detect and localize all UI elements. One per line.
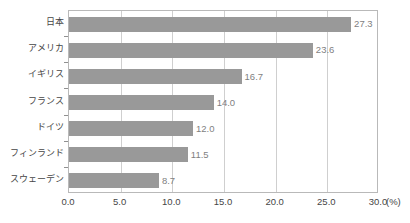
bar-value-label: 8.7 [162,176,175,186]
x-axis-labels: 0.05.010.015.020.025.030.0(%) [0,197,410,211]
x-axis-tick-label: 5.0 [113,197,126,207]
bar [69,17,351,32]
y-axis-tick [64,141,68,142]
chart-page: 日本アメリカイギリスフランスドイツフィンランドスウェーデン 27.323.616… [0,0,410,223]
x-axis-tick-label: 0.0 [61,197,74,207]
bar [69,121,193,136]
y-axis-tick [64,88,68,89]
bar [69,147,188,162]
x-axis-unit-label: (%) [386,197,401,207]
bar [69,43,313,58]
bar [69,173,159,188]
bar-value-label: 23.6 [316,45,335,55]
category-label: フィンランド [10,149,64,158]
bar-row: 14.0 [69,95,377,110]
bar-value-label: 11.5 [191,150,209,160]
category-label: スウェーデン [10,175,64,184]
bar-row: 8.7 [69,173,377,188]
category-axis-labels: 日本アメリカイギリスフランスドイツフィンランドスウェーデン [0,10,64,193]
bar-value-label: 16.7 [245,72,264,82]
bar-row: 12.0 [69,121,377,136]
bar-row: 23.6 [69,43,377,58]
plot-area: 27.323.616.714.012.011.58.7 [68,10,378,193]
bar-value-label: 12.0 [196,124,215,134]
x-axis-tick-label: 25.0 [317,197,336,207]
bar-row: 11.5 [69,147,377,162]
bar [69,95,214,110]
bar-row: 27.3 [69,17,377,32]
y-axis-tick [64,115,68,116]
y-axis-tick [64,167,68,168]
category-label: フランス [28,97,64,106]
y-axis-tick [64,62,68,63]
bar-value-label: 14.0 [217,98,236,108]
bar [69,69,242,84]
x-axis-tick-label: 10.0 [162,197,181,207]
category-label: 日本 [46,18,64,27]
y-axis-tick [64,36,68,37]
bar-series: 27.323.616.714.012.011.58.7 [69,11,377,192]
x-axis-tick-label: 20.0 [265,197,284,207]
category-label: アメリカ [28,44,64,53]
category-label: ドイツ [37,123,64,132]
category-label: イギリス [28,70,64,79]
x-axis-tick-label: 30.0 [369,197,388,207]
x-axis-tick-label: 15.0 [214,197,233,207]
bar-row: 16.7 [69,69,377,84]
bar-value-label: 27.3 [354,19,373,29]
